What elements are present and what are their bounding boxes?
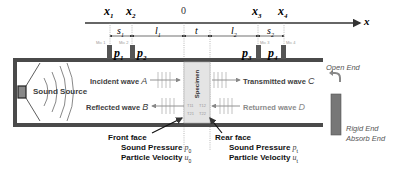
- mic2-pressure: p2: [137, 46, 147, 62]
- mic3-pressure: p3: [242, 46, 252, 62]
- open-end-label: Open End: [326, 63, 360, 72]
- axis-label-x4: x4: [278, 4, 288, 20]
- segment-t: t: [195, 25, 198, 36]
- reflected-wave-label: Reflected wave B: [86, 102, 148, 112]
- segment-s2: s2: [267, 25, 274, 38]
- segment-l2: l2: [231, 25, 237, 38]
- rigid-end-label: Rigid End: [346, 124, 379, 133]
- front-sound-pressure: Sound Pressure p0: [121, 143, 191, 154]
- front-face-title: Front face: [108, 133, 147, 142]
- absorb-end-label: Absorb End: [346, 134, 385, 143]
- axis-label-x2: x2: [126, 4, 136, 20]
- axis-label-origin: 0: [181, 5, 186, 16]
- rear-face-title: Rear face: [215, 133, 251, 142]
- matrix-t21: T21: [187, 111, 194, 116]
- rear-sound-pressure: Sound Pressure pt: [229, 143, 298, 154]
- mic4-pressure: p4: [268, 46, 278, 62]
- front-particle-velocity: Particle Velocity u0: [121, 153, 191, 164]
- axis-label-x: x: [364, 15, 370, 27]
- matrix-t11: T11: [187, 103, 194, 108]
- matrix-t12: T12: [199, 103, 206, 108]
- axis-label-x3: x3: [252, 4, 262, 20]
- axis-label-x1: x1: [104, 4, 114, 20]
- rear-particle-velocity: Particle Velocity ut: [229, 153, 298, 164]
- returned-wave-label: Returned wave D: [243, 102, 305, 112]
- sound-source-label: Sound Source: [33, 87, 87, 96]
- matrix-t22: T22: [199, 111, 206, 116]
- transmitted-wave-label: Transmitted wave C: [243, 76, 315, 86]
- mic1-pressure: p1: [114, 46, 124, 62]
- mic2-label: Mic 2: [119, 40, 129, 45]
- incident-wave-label: Incident wave A: [90, 76, 147, 86]
- segment-s1: s1: [117, 25, 124, 38]
- mic4-label: Mic 4: [286, 40, 296, 45]
- mic3-label: Mic 3: [260, 40, 270, 45]
- segment-l1: l1: [155, 25, 161, 38]
- mic1-label: Mic 1: [96, 40, 106, 45]
- specimen-label: Specimen: [194, 65, 200, 103]
